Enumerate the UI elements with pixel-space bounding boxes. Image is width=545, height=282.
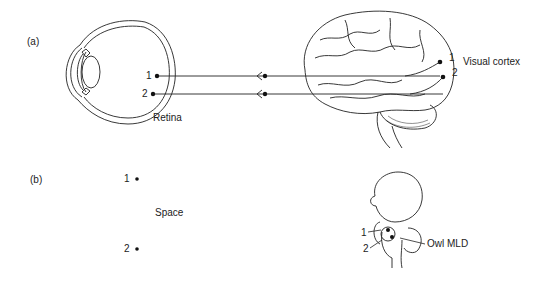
owl-leader-lines [368, 230, 425, 248]
mld-point-1-label: 1 [361, 227, 367, 239]
space-point-1 [135, 177, 139, 181]
space-dots [135, 177, 139, 251]
visual-cortex-label: Visual cortex [463, 56, 520, 68]
mld-point-2-label: 2 [363, 243, 369, 255]
retina-point-2 [151, 92, 155, 96]
mld-point-2 [390, 235, 394, 239]
panel-a-label: (a) [27, 36, 39, 48]
cortex-point-2-label: 2 [452, 67, 458, 79]
cortex-connectors [405, 62, 443, 94]
cortex-point-1-label: 1 [449, 52, 455, 64]
retina-label: Retina [153, 112, 182, 124]
space-label: Space [155, 207, 183, 219]
mld-point-1 [386, 228, 390, 232]
human-brain-drawing [304, 11, 454, 148]
panel-b-label: (b) [30, 174, 42, 186]
retina-point-2-label: 2 [142, 88, 148, 100]
space-point-2-label: 2 [124, 243, 130, 255]
retina-point-1 [155, 74, 159, 78]
space-point-2 [135, 247, 139, 251]
owl-brain-drawing [371, 172, 423, 268]
retina-point-1-label: 1 [146, 70, 152, 82]
mld-dots [386, 228, 394, 239]
eye-drawing [66, 21, 175, 124]
projection-lines [153, 72, 443, 98]
space-point-1-label: 1 [124, 173, 130, 185]
owl-mld-label: Owl MLD [427, 238, 468, 250]
